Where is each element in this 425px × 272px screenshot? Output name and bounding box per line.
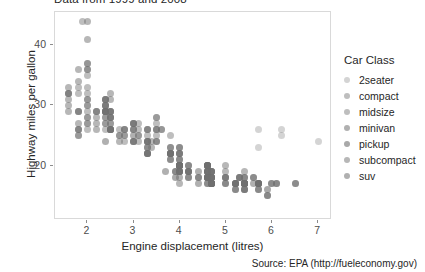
scatter-point [75,66,82,73]
scatter-point [176,150,183,157]
scatter-point [93,126,100,133]
scatter-point [84,126,91,133]
legend-swatch-icon [340,73,354,87]
scatter-point [84,72,91,79]
scatter-point [84,108,91,115]
legend-item-label: 2seater [359,75,394,86]
x-tick-label: 5 [210,225,240,236]
legend-item-compact[interactable]: compact [340,88,425,104]
scatter-point [278,132,285,139]
legend-swatch-icon [340,153,354,167]
scatter-point [255,126,262,133]
scatter-points-layer [55,12,330,218]
scatter-point [121,126,128,133]
scatter-point [130,120,137,127]
scatter-point [84,18,91,25]
legend-item-pickup[interactable]: pickup [340,136,425,152]
scatter-point [158,126,165,133]
legend-item-midsize[interactable]: midsize [340,104,425,120]
scatter-point [255,180,262,187]
y-tick-mark [50,44,53,45]
legend-swatch-icon [340,169,354,183]
scatter-point [315,138,322,145]
x-tick-label: 6 [256,225,286,236]
legend-item-label: midsize [359,107,395,118]
scatter-point [232,186,239,193]
legend-item-label: minivan [359,123,395,134]
scatter-point [255,144,262,151]
scatter-point [241,186,248,193]
scatter-point [75,126,82,133]
legend-item-subcompact[interactable]: subcompact [340,152,425,168]
legend-swatch-icon [340,89,354,103]
y-tick-mark [50,165,53,166]
legend-item-label: pickup [359,139,389,150]
x-axis-label: Engine displacement (litres) [54,240,331,252]
scatter-point [185,162,192,169]
scatter-point [107,108,114,115]
legend-items: 2seatercompactmidsizeminivanpickupsubcom… [340,72,425,184]
scatter-point [130,132,137,139]
x-tick-label: 4 [164,225,194,236]
scatter-point [75,78,82,85]
x-tick-label: 7 [302,225,332,236]
scatter-point [222,174,229,181]
scatter-point [75,108,82,115]
x-tick-mark [179,220,180,223]
scatter-point [167,156,174,163]
scatter-point [162,168,169,175]
legend: Car Class 2seatercompactmidsizeminivanpi… [340,54,425,184]
scatter-point [84,102,91,109]
x-tick-label: 2 [71,225,101,236]
y-axis-label: Highway miles per gallon [25,10,37,218]
scatter-point [84,66,91,73]
x-tick-mark [317,220,318,223]
scatter-point [75,90,82,97]
legend-item-label: subcompact [359,155,416,166]
scatter-point [84,60,91,67]
scatter-point [107,96,114,103]
legend-title: Car Class [344,54,425,66]
y-tick-mark [50,104,53,105]
scatter-point [195,174,202,181]
x-tick-mark [133,220,134,223]
scatter-point [222,180,229,187]
scatter-point [232,180,239,187]
legend-item-minivan[interactable]: minivan [340,120,425,136]
scatter-point [167,132,174,139]
scatter-point [292,180,299,187]
fuel-economy-scatter-figure: Data from 1999 and 2008 203040 234567 Hi… [0,0,425,272]
scatter-point [144,150,151,157]
legend-item-label: suv [359,171,375,182]
legend-swatch-icon [340,105,354,119]
scatter-point [107,114,114,121]
scatter-point [65,108,72,115]
scatter-point [84,96,91,103]
source-caption: Source: EPA (http://fueleconomy.gov) [252,258,417,269]
legend-item-suv[interactable]: suv [340,168,425,184]
scatter-point [75,132,82,139]
scatter-point [75,120,82,127]
legend-swatch-icon [340,137,354,151]
x-tick-mark [271,220,272,223]
legend-item-label: compact [359,91,399,102]
x-tick-label: 3 [118,225,148,236]
scatter-point [102,138,109,145]
scatter-point [176,180,183,187]
scatter-point [264,192,271,199]
legend-swatch-icon [340,121,354,135]
scatter-point [195,180,202,187]
scatter-point [65,102,72,109]
scatter-point [107,90,114,97]
plot-panel [54,11,331,219]
x-tick-mark [225,220,226,223]
scatter-point [107,126,114,133]
scatter-point [195,168,202,175]
scatter-point [185,174,192,181]
scatter-point [153,138,160,145]
scatter-point [84,36,91,43]
legend-item-2seater[interactable]: 2seater [340,72,425,88]
scatter-point [93,120,100,127]
x-tick-mark [86,220,87,223]
scatter-point [255,186,262,193]
